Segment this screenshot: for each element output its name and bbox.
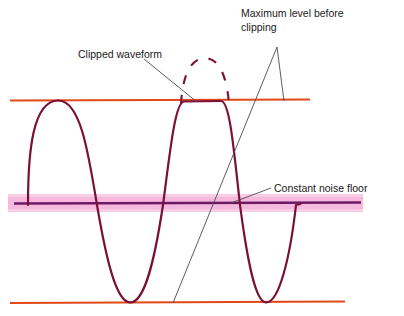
lower-limit-line	[10, 302, 345, 304]
label-clipped-waveform: Clipped waveform	[78, 48, 162, 60]
maximum-level-leader-left	[173, 47, 277, 303]
diagram-canvas: Maximum level before clipping Clipped wa…	[0, 0, 404, 316]
clipping-diagram: Maximum level before clipping Clipped wa…	[0, 0, 404, 316]
unclipped-peak-dashed-arc	[181, 58, 229, 104]
clipped-waveform-leader	[144, 59, 197, 102]
constant-noise-floor-line	[14, 203, 361, 204]
label-maximum-level-line1: Maximum level before	[241, 7, 344, 19]
label-constant-noise-floor: Constant noise floor	[274, 182, 368, 194]
maximum-level-leader-right	[277, 47, 284, 101]
label-maximum-level-line2: clipping	[241, 21, 277, 33]
